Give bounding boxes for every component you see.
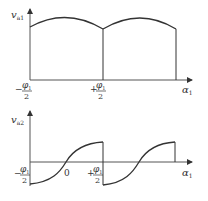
top-waveform-arch-1 xyxy=(30,17,103,29)
svg-text:φ1: φ1 xyxy=(93,164,103,175)
svg-text:φ1: φ1 xyxy=(96,80,106,91)
waveform-diagram: va1 α1 − φ1 2 + φ1 2 va2 α1 xyxy=(0,0,208,201)
svg-text:φ1: φ1 xyxy=(20,164,30,175)
top-x-label: α1 xyxy=(182,84,193,96)
top-y-label: va1 xyxy=(11,9,24,21)
bottom-graph: va2 α1 0 − φ1 2 + φ1 2 xyxy=(11,111,193,186)
svg-text:2: 2 xyxy=(22,176,27,185)
bottom-zero-label: 0 xyxy=(64,168,70,178)
bottom-waveform-curve-2 xyxy=(103,142,175,185)
bottom-y-label: va2 xyxy=(11,114,24,126)
top-waveform-arch-2 xyxy=(103,18,176,29)
top-tick-right-label: + φ1 2 xyxy=(90,80,106,101)
svg-text:2: 2 xyxy=(98,92,103,101)
svg-text:2: 2 xyxy=(24,92,29,101)
svg-text:2: 2 xyxy=(95,176,100,185)
top-graph: va1 α1 − φ1 2 + φ1 2 xyxy=(11,9,193,101)
bottom-x-label: α1 xyxy=(182,167,193,179)
bottom-tick-left-label: − φ1 2 xyxy=(14,164,30,185)
svg-text:φ1: φ1 xyxy=(22,80,32,91)
bottom-tick-right-label: + φ1 2 xyxy=(87,164,103,185)
top-tick-left-label: − φ1 2 xyxy=(15,80,32,101)
